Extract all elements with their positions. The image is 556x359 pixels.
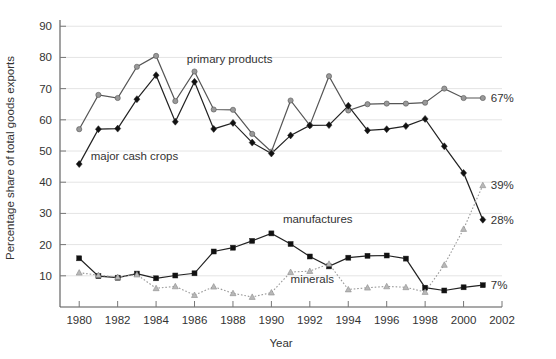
y-axis-tick-labels: 102030405060708090 bbox=[39, 20, 52, 282]
end-label-primary-products: 67% bbox=[491, 92, 514, 104]
chart-container: 102030405060708090 198019821984198619881… bbox=[0, 0, 556, 359]
marker-manufactures bbox=[231, 245, 236, 250]
y-tick-label: 70 bbox=[39, 83, 52, 95]
x-tick-label: 2002 bbox=[489, 314, 515, 326]
marker-manufactures bbox=[269, 231, 274, 236]
x-tick-label: 1994 bbox=[335, 314, 361, 326]
marker-manufactures bbox=[346, 255, 351, 260]
end-label-manufactures: 7% bbox=[491, 279, 508, 291]
marker-primary-products bbox=[77, 127, 82, 132]
y-tick-label: 10 bbox=[39, 270, 52, 282]
y-tick-label: 90 bbox=[39, 20, 52, 32]
chart-background bbox=[0, 0, 556, 359]
y-tick-label: 60 bbox=[39, 114, 52, 126]
marker-primary-products bbox=[192, 69, 197, 74]
marker-primary-products bbox=[288, 98, 293, 103]
marker-primary-products bbox=[384, 101, 389, 106]
line-chart: 102030405060708090 198019821984198619881… bbox=[0, 0, 556, 359]
series-label-manufactures: manufactures bbox=[283, 213, 353, 225]
marker-manufactures bbox=[77, 256, 82, 261]
x-tick-label: 1992 bbox=[297, 314, 323, 326]
marker-manufactures bbox=[288, 242, 293, 247]
marker-manufactures bbox=[250, 238, 255, 243]
marker-primary-products bbox=[154, 53, 159, 58]
marker-primary-products bbox=[326, 74, 331, 79]
x-tick-label: 1984 bbox=[143, 314, 169, 326]
marker-manufactures bbox=[403, 256, 408, 261]
end-label-minerals: 39% bbox=[491, 179, 514, 191]
y-tick-label: 30 bbox=[39, 207, 52, 219]
marker-manufactures bbox=[307, 254, 312, 259]
marker-manufactures bbox=[192, 271, 197, 276]
marker-manufactures bbox=[461, 285, 466, 290]
series-label-minerals: minerals bbox=[291, 273, 335, 285]
marker-primary-products bbox=[480, 95, 485, 100]
x-tick-label: 1988 bbox=[220, 314, 246, 326]
marker-primary-products bbox=[173, 99, 178, 104]
marker-primary-products bbox=[423, 100, 428, 105]
end-label-major-cash-crops: 28% bbox=[491, 214, 514, 226]
marker-primary-products bbox=[134, 64, 139, 69]
x-tick-label: 1982 bbox=[105, 314, 131, 326]
y-tick-label: 40 bbox=[39, 176, 52, 188]
marker-primary-products bbox=[250, 131, 255, 136]
series-label-major-cash-crops: major cash crops bbox=[91, 150, 179, 162]
marker-primary-products bbox=[403, 101, 408, 106]
y-tick-label: 50 bbox=[39, 145, 52, 157]
x-tick-label: 1986 bbox=[182, 314, 208, 326]
x-tick-label: 1980 bbox=[66, 314, 92, 326]
marker-primary-products bbox=[115, 95, 120, 100]
marker-primary-products bbox=[365, 102, 370, 107]
x-axis-title: Year bbox=[269, 337, 292, 349]
series-label-primary-products: primary products bbox=[187, 53, 273, 65]
x-tick-label: 1998 bbox=[412, 314, 438, 326]
marker-primary-products bbox=[442, 86, 447, 91]
marker-manufactures bbox=[480, 283, 485, 288]
marker-primary-products bbox=[96, 92, 101, 97]
marker-primary-products bbox=[461, 95, 466, 100]
y-axis-title: Percentage share of total goods exports bbox=[4, 56, 16, 260]
marker-manufactures bbox=[173, 273, 178, 278]
y-tick-label: 80 bbox=[39, 51, 52, 63]
marker-manufactures bbox=[154, 276, 159, 281]
marker-manufactures bbox=[384, 253, 389, 258]
marker-primary-products bbox=[211, 107, 216, 112]
marker-manufactures bbox=[442, 288, 447, 293]
x-tick-label: 2000 bbox=[451, 314, 477, 326]
x-tick-label: 1990 bbox=[259, 314, 285, 326]
x-tick-label: 1996 bbox=[374, 314, 400, 326]
marker-manufactures bbox=[365, 253, 370, 258]
marker-primary-products bbox=[230, 107, 235, 112]
marker-manufactures bbox=[211, 249, 216, 254]
y-tick-label: 20 bbox=[39, 239, 52, 251]
